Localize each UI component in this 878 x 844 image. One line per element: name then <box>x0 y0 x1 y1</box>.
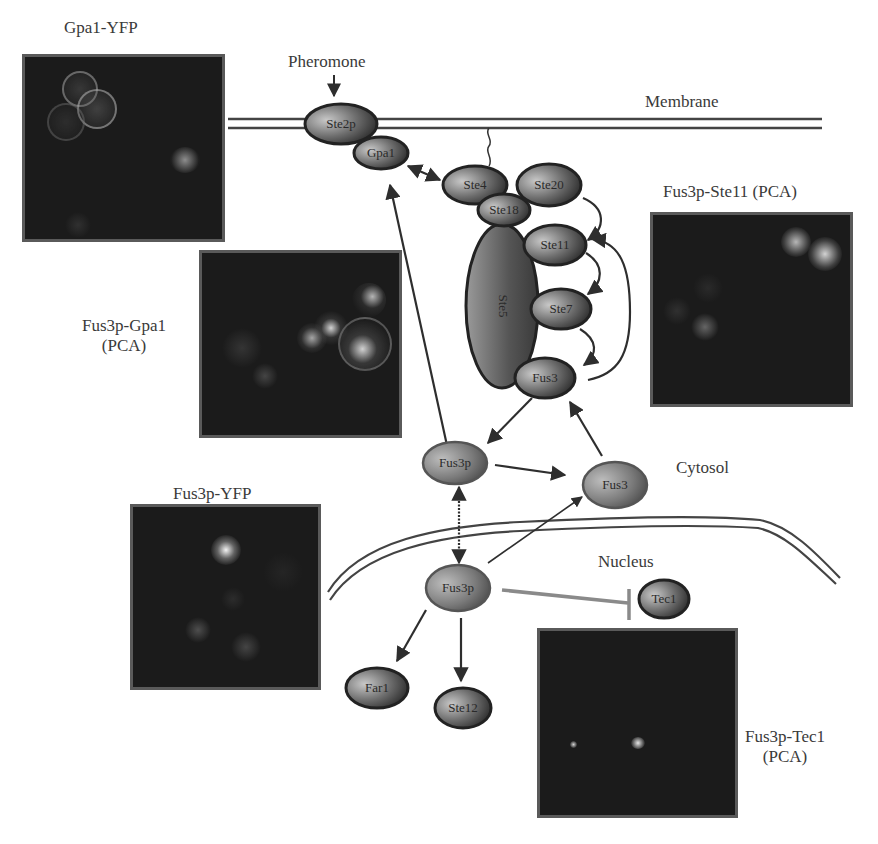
arrow-nuclear-fus3-to-cyto <box>488 497 582 563</box>
arrow-scaffold-fus3-to-cyto <box>488 398 532 443</box>
arrow-cyto-fus3-left-to-right <box>495 465 565 475</box>
arrow-ste20-ste11 <box>583 198 601 240</box>
node-ste11: Ste11 <box>524 225 586 265</box>
arrow-cyto-fus3-to-scaffold <box>570 402 602 456</box>
node-fus3-cytosol-left: Fus3p <box>423 442 487 484</box>
lipid-anchor <box>488 128 491 166</box>
node-fus3-nuclear: Fus3p <box>426 565 490 611</box>
nuclear-envelope <box>328 517 840 600</box>
arrow-fus3-to-gpa1 <box>390 185 448 450</box>
node-fus3-scaffold: Fus3 <box>515 358 575 398</box>
fus3-scaffold-label: Fus3 <box>532 370 557 385</box>
arrow-ste7-fus3 <box>580 329 594 365</box>
ste12-label: Ste12 <box>448 700 478 715</box>
node-ste18: Ste18 <box>478 194 530 226</box>
node-fus3-cytosol-right: Fus3 <box>583 462 647 508</box>
ste18-label: Ste18 <box>489 202 519 217</box>
fus3-cytosol-left-label: Fus3p <box>439 455 471 470</box>
arrow-ste11-ste7 <box>586 253 600 294</box>
ste20-label: Ste20 <box>534 177 564 192</box>
ste11-label: Ste11 <box>540 237 569 252</box>
ste5-scaffold-label: Ste5 <box>496 294 511 317</box>
node-tec1: Tec1 <box>639 580 689 618</box>
gpa1-label: Gpa1 <box>367 145 395 160</box>
node-far1: Far1 <box>346 668 408 708</box>
node-ste12: Ste12 <box>435 688 491 728</box>
far1-label: Far1 <box>365 680 389 695</box>
fus3-nuclear-label: Fus3p <box>442 580 474 595</box>
fus3-cytosol-right-label: Fus3 <box>602 477 627 492</box>
arrow-gpa1-ste4-bidir <box>408 166 440 180</box>
pathway-diagram: Ste5 Ste2p Gpa1 Ste4 Ste18 St <box>0 0 878 844</box>
ste2-label: Ste2p <box>326 116 356 131</box>
node-ste7: Ste7 <box>531 289 591 329</box>
arrow-fus3-to-far1 <box>397 610 426 661</box>
inhibition-fus3-tec1 <box>502 589 629 620</box>
tec1-label: Tec1 <box>651 591 676 606</box>
ste4-label: Ste4 <box>463 177 487 192</box>
node-ste20: Ste20 <box>517 164 581 206</box>
node-gpa1: Gpa1 <box>354 137 408 169</box>
ste7-label: Ste7 <box>549 301 573 316</box>
